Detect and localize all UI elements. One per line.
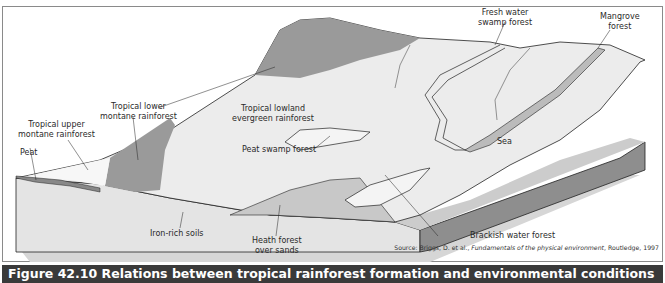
label-tropical-lowland: Tropical lowlandevergreen rainforest bbox=[232, 104, 314, 124]
source-citation: Source: Briggs, D. et al., Fundamentals … bbox=[394, 244, 659, 251]
label-tropical-lower-montane: Tropical lowermontane rainforest bbox=[100, 102, 177, 122]
label-iron-rich-soils: Iron-rich soils bbox=[150, 229, 204, 239]
label-peat: Peat bbox=[20, 148, 38, 158]
label-peat-swamp-forest: Peat swamp forest bbox=[242, 145, 316, 155]
label-heath-forest: Heath forestover sands bbox=[252, 236, 302, 256]
rainforest-block-diagram bbox=[0, 0, 665, 283]
label-fresh-water-swamp-forest: Fresh waterswamp forest bbox=[478, 8, 532, 28]
label-brackish-water-forest: Brackish water forest bbox=[470, 231, 555, 241]
figure-caption: Figure 42.10 Relations between tropical … bbox=[2, 265, 663, 283]
label-tropical-upper-montane: Tropical uppermontane rainforest bbox=[18, 120, 95, 140]
label-sea: Sea bbox=[497, 137, 512, 147]
label-mangrove-forest: Mangroveforest bbox=[600, 12, 640, 32]
